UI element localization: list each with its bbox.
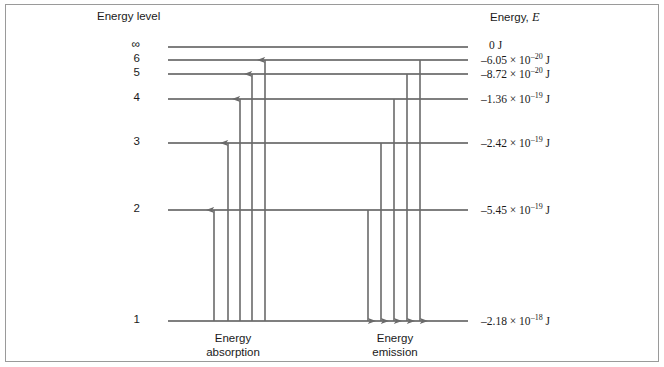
energy-mantissa-2: –5.45 × 10 (481, 204, 531, 216)
caption-emission-line1: Energy (340, 331, 450, 345)
energy-unit-1: J (543, 315, 550, 327)
energy-unit-3: J (543, 137, 550, 149)
energy-unit-6: J (543, 54, 550, 66)
energy-exponent-3: –19 (531, 135, 543, 144)
energy-mantissa-6: –6.05 × 10 (481, 54, 531, 66)
level-number-5: 5 (110, 66, 140, 78)
level-lines-group (168, 47, 468, 321)
energy-value-infinity: 0 J (489, 39, 502, 51)
energy-exponent-2: –19 (531, 202, 543, 211)
level-number-1: 1 (110, 313, 140, 325)
energy-exponent-4: –19 (531, 91, 543, 100)
energy-value-4: –1.36 × 10–19 J (481, 91, 550, 105)
energy-level-diagram: Energy level Energy, E ∞654321 0 J–6.05 … (0, 0, 664, 367)
caption-absorption-line2: absorption (178, 345, 288, 359)
caption-energy-emission: Energy emission (340, 331, 450, 360)
energy-exponent-5: –20 (531, 66, 543, 75)
energy-value-6: –6.05 × 10–20 J (481, 52, 550, 66)
energy-unit-5: J (543, 68, 550, 80)
energy-value-3: –2.42 × 10–19 J (481, 135, 550, 149)
energy-mantissa-3: –2.42 × 10 (481, 137, 531, 149)
energy-mantissa-5: –8.72 × 10 (481, 68, 531, 80)
energy-value-2: –5.45 × 10–19 J (481, 202, 550, 216)
level-number-3: 3 (110, 135, 140, 147)
energy-mantissa-4: –1.36 × 10 (481, 93, 531, 105)
caption-emission-line2: emission (340, 345, 450, 359)
energy-exponent-6: –20 (531, 52, 543, 61)
caption-absorption-line1: Energy (178, 331, 288, 345)
energy-unit-2: J (543, 204, 550, 216)
level-number-infinity: ∞ (110, 37, 140, 51)
energy-mantissa-1: –2.18 × 10 (481, 315, 531, 327)
diagram-canvas (0, 0, 664, 367)
energy-exponent-1: –18 (531, 313, 543, 322)
energy-unit-4: J (543, 93, 550, 105)
level-number-6: 6 (110, 52, 140, 64)
energy-value-1: –2.18 × 10–18 J (481, 313, 550, 327)
caption-energy-absorption: Energy absorption (178, 331, 288, 360)
level-number-2: 2 (110, 202, 140, 214)
energy-value-5: –8.72 × 10–20 J (481, 66, 550, 80)
level-number-4: 4 (110, 91, 140, 103)
